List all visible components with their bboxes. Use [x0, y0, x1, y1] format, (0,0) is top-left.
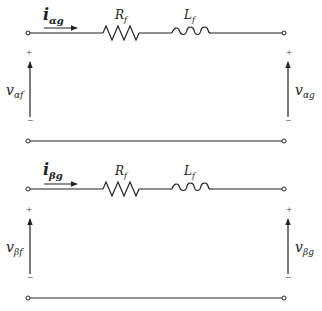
minus-sign: −: [27, 114, 33, 126]
right-voltage-label: vαg: [295, 82, 315, 100]
right-voltage-label: vβg: [295, 239, 314, 257]
terminal: [282, 296, 286, 300]
terminal: [26, 31, 30, 35]
terminal: [26, 296, 30, 300]
terminal: [26, 139, 30, 143]
inductor-label: Lf: [183, 8, 197, 24]
terminal: [282, 31, 286, 35]
plus-sign: +: [286, 203, 292, 215]
resistor-beta: [103, 182, 139, 196]
minus-sign: −: [285, 271, 291, 283]
terminal: [282, 139, 286, 143]
plus-sign: +: [26, 203, 32, 215]
circuit-diagram: iαg Rf Lf + − vαf + − vαg: [0, 0, 322, 311]
plus-sign: +: [26, 46, 32, 58]
minus-sign: −: [27, 271, 33, 283]
current-label: iαg: [43, 5, 64, 26]
terminal: [282, 187, 286, 191]
resistor-label: Rf: [114, 164, 129, 180]
minus-sign: −: [285, 114, 291, 126]
current-label: iβg: [43, 160, 63, 181]
alpha-circuit: iαg Rf Lf + − vαf + − vαg: [6, 5, 315, 143]
plus-sign: +: [286, 46, 292, 58]
resistor-label: Rf: [114, 8, 129, 24]
left-voltage-label: vαf: [6, 82, 25, 100]
resistor-alpha: [103, 26, 139, 40]
inductor-beta: [172, 183, 211, 191]
inductor-label: Lf: [183, 164, 197, 180]
beta-circuit: iβg Rf Lf + − vβf + − vβg: [6, 160, 314, 300]
inductor-alpha: [172, 27, 211, 35]
terminal: [26, 187, 30, 191]
left-voltage-label: vβf: [6, 239, 24, 257]
